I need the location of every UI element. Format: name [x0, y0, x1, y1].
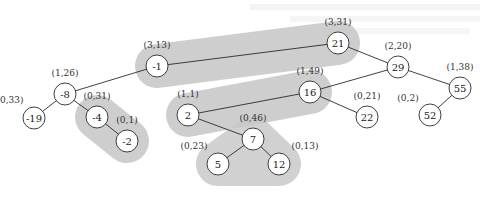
node-annotation: (3,13) — [143, 40, 170, 50]
tree-node: 29(2,20) — [384, 41, 411, 78]
tree-node: -2(0,1) — [116, 115, 138, 152]
tree-node: -8(1,26) — [51, 68, 78, 105]
node-key: 12 — [273, 159, 286, 170]
node-annotation: (1,49) — [296, 66, 323, 76]
tree-node: 2(1,1) — [177, 89, 199, 126]
tree-node: 52(0,2) — [397, 93, 441, 126]
node-key: 22 — [361, 112, 374, 123]
node-key: 55 — [454, 83, 467, 94]
node-annotation: (1,38) — [446, 62, 473, 72]
node-key: -4 — [92, 112, 102, 123]
node-annotation: (3,31) — [324, 17, 351, 27]
tree-node: 22(0,21) — [353, 91, 380, 128]
node-key: 52 — [424, 110, 437, 121]
node-annotation: (2,20) — [384, 41, 411, 51]
node-key: 5 — [215, 159, 221, 170]
tree-node: -19(0,33) — [0, 95, 45, 129]
tree-diagram: 21(3,31)-1(3,13)29(2,20)-8(1,26)16(1,49)… — [0, 0, 491, 205]
node-annotation: (0,1) — [116, 115, 137, 125]
node-key: 29 — [392, 62, 405, 73]
node-key: -1 — [152, 61, 162, 72]
node-key: -2 — [122, 136, 132, 147]
node-annotation: (0,31) — [83, 91, 110, 101]
node-annotation: (0,13) — [291, 141, 318, 151]
node-key: -8 — [60, 89, 70, 100]
node-annotation: (1,26) — [51, 68, 78, 78]
node-annotation: (0,46) — [239, 113, 266, 123]
node-annotation: (1,1) — [177, 89, 198, 99]
node-key: 2 — [185, 110, 191, 121]
node-key: 21 — [332, 38, 345, 49]
node-annotation: (0,33) — [0, 95, 24, 105]
node-annotation: (0,21) — [353, 91, 380, 101]
tree-node: 55(1,38) — [446, 62, 473, 99]
node-annotation: (0,2) — [397, 93, 418, 103]
node-key: -19 — [26, 113, 42, 124]
node-key: 16 — [304, 87, 317, 98]
node-annotation: (0,23) — [180, 141, 207, 151]
node-key: 7 — [250, 134, 256, 145]
